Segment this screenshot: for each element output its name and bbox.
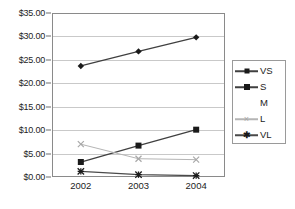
y-tick-mark <box>46 83 51 84</box>
y-tick-mark <box>46 177 51 178</box>
data-point <box>136 143 142 149</box>
legend-item-vl[interactable]: ✱VL <box>233 127 285 143</box>
x-tick-label: 2004 <box>186 180 207 191</box>
y-tick-label: $35.00 <box>19 8 45 18</box>
legend-label: VL <box>260 130 272 140</box>
data-point <box>135 171 141 177</box>
y-tick-mark <box>46 130 51 131</box>
y-tick-label: $5.00 <box>23 149 45 159</box>
chart-legend: VSSM×L✱VL <box>232 60 286 144</box>
x-tick-label: 2003 <box>128 180 149 191</box>
legend-label: VS <box>260 66 273 76</box>
y-tick-mark <box>46 59 51 60</box>
y-tick-label: $0.00 <box>23 172 45 182</box>
x-tick-label: 2002 <box>70 180 91 191</box>
legend-item-m[interactable]: M <box>233 95 285 111</box>
y-tick-mark <box>46 13 51 14</box>
legend-label: M <box>260 98 268 108</box>
y-tick-label: $10.00 <box>19 125 45 135</box>
data-point <box>193 34 199 40</box>
legend-marker-vs-icon <box>233 64 260 78</box>
data-point <box>78 159 84 165</box>
series-vs <box>78 34 200 69</box>
y-tick-mark <box>46 106 51 107</box>
y-tick-label: $20.00 <box>19 78 45 88</box>
y-tick-label: $15.00 <box>19 102 45 112</box>
legend-label: L <box>260 114 265 124</box>
y-tick-label: $30.00 <box>19 31 45 41</box>
data-point <box>78 63 84 69</box>
y-axis: $35.00$30.00$25.00$20.00$15.00$10.00$5.0… <box>0 13 49 177</box>
y-tick-mark <box>46 153 51 154</box>
legend-item-s[interactable]: S <box>233 79 285 95</box>
data-point <box>78 168 84 174</box>
y-tick-label: $25.00 <box>19 55 45 65</box>
x-axis: 200220032004 <box>52 180 225 200</box>
legend-marker-s-icon <box>233 80 260 94</box>
data-point <box>135 48 141 54</box>
data-point <box>78 141 84 147</box>
line-chart: $35.00$30.00$25.00$20.00$15.00$10.00$5.0… <box>0 0 295 209</box>
legend-item-l[interactable]: ×L <box>233 111 285 127</box>
data-point <box>193 172 199 178</box>
legend-marker-vl-icon: ✱ <box>233 128 260 142</box>
series-vl <box>78 168 200 179</box>
legend-item-vs[interactable]: VS <box>233 63 285 79</box>
data-point <box>193 127 199 133</box>
legend-label: S <box>260 82 266 92</box>
y-tick-mark <box>46 36 51 37</box>
series-layer <box>52 13 225 177</box>
legend-marker-m-icon <box>233 96 260 110</box>
legend-marker-l-icon: × <box>233 112 260 126</box>
